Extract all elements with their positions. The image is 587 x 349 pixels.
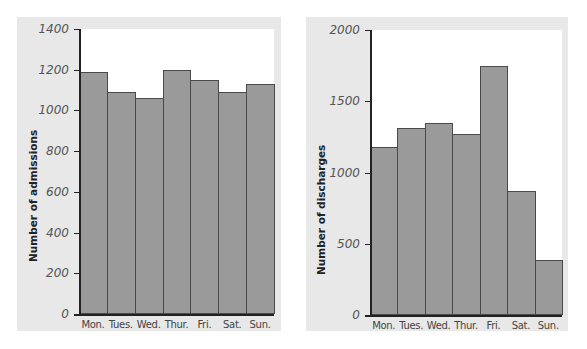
discharges-y-tick xyxy=(365,244,371,245)
discharges-bar-mon xyxy=(370,147,398,315)
discharges-bar-wed xyxy=(425,123,453,315)
admissions-y-axis-label: Number of admissions xyxy=(27,130,39,262)
admissions-y-tick-label: 0 xyxy=(29,308,69,320)
admissions-bar-fri xyxy=(190,80,219,314)
discharges-y-tick xyxy=(365,30,371,31)
admissions-y-tick xyxy=(74,110,80,111)
admissions-y-tick xyxy=(74,70,80,71)
admissions-x-tick-label: Sun. xyxy=(242,319,278,331)
discharges-y-tick xyxy=(365,173,371,174)
admissions-x-axis xyxy=(74,314,274,316)
admissions-y-tick-label: 200 xyxy=(29,267,69,279)
admissions-y-tick-label: 1400 xyxy=(29,23,69,35)
discharges-y-tick xyxy=(365,101,371,102)
admissions-bar-mon xyxy=(79,72,108,314)
discharges-x-tick-label: Sun. xyxy=(531,320,566,332)
admissions-y-tick-label: 1000 xyxy=(29,104,69,116)
discharges-y-tick xyxy=(365,315,371,316)
admissions-bar-thur xyxy=(163,70,192,314)
discharges-y-tick-label: 0 xyxy=(320,309,360,321)
admissions-y-tick xyxy=(74,233,80,234)
admissions-y-tick xyxy=(74,151,80,152)
admissions-bar-sun xyxy=(246,84,275,314)
admissions-y-tick xyxy=(74,29,80,30)
discharges-bar-thur xyxy=(452,134,480,315)
admissions-bar-wed xyxy=(135,98,164,314)
discharges-y-tick-label: 1500 xyxy=(320,95,360,107)
admissions-y-axis xyxy=(79,29,81,314)
admissions-y-tick xyxy=(74,273,80,274)
discharges-bar-sun xyxy=(535,260,563,315)
admissions-y-tick-label: 1200 xyxy=(29,64,69,76)
admissions-y-tick xyxy=(74,314,80,315)
discharges-bar-sat xyxy=(507,191,535,315)
discharges-y-axis-label: Number of discharges xyxy=(315,145,327,275)
discharges-y-tick-label: 2000 xyxy=(320,24,360,36)
discharges-bar-fri xyxy=(480,66,508,315)
discharges-x-axis xyxy=(365,315,562,317)
discharges-bar-tues xyxy=(397,128,425,315)
admissions-y-tick xyxy=(74,192,80,193)
admissions-bar-sat xyxy=(218,92,247,314)
admissions-bar-tues xyxy=(107,92,136,314)
